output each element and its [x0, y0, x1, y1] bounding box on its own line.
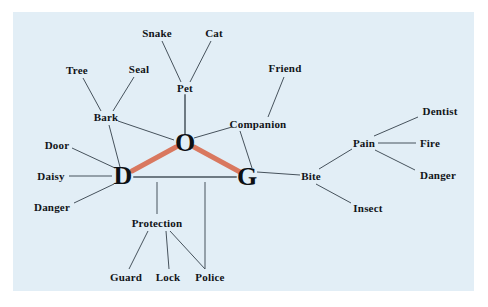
- edge-O-G: [194, 147, 240, 172]
- graph-edges: [0, 0, 488, 307]
- concept-label-guard: Guard: [110, 272, 142, 283]
- edge-bark-tree: [83, 78, 101, 111]
- concept-label-lock: Lock: [156, 272, 181, 283]
- concept-label-police: Police: [195, 272, 224, 283]
- concept-label-bite: Bite: [301, 171, 321, 182]
- edge-layer: [69, 41, 418, 269]
- edge-G-bite: [257, 172, 300, 175]
- concept-label-dentist: Dentist: [422, 106, 457, 117]
- concept-label-cat: Cat: [205, 28, 223, 39]
- concept-label-companion: Companion: [230, 119, 287, 130]
- concept-label-danger_r: Danger: [420, 170, 456, 181]
- edge-protection-guard: [129, 231, 148, 269]
- edge-pet-snake: [162, 41, 181, 82]
- edge-D-O: [132, 147, 176, 171]
- edge-companion-friend: [268, 77, 284, 117]
- concept-label-danger_l: Danger: [34, 202, 70, 213]
- edge-O-companion: [194, 127, 232, 138]
- edge-D-danger_l: [74, 184, 114, 203]
- concept-label-friend: Friend: [269, 63, 302, 74]
- concept-label-door: Door: [45, 140, 70, 151]
- core-node-D: D: [114, 163, 133, 189]
- edge-pain-danger_r: [375, 150, 415, 170]
- concept-label-tree: Tree: [66, 65, 88, 76]
- edge-protection-police: [170, 231, 205, 269]
- figure-canvas: SnakeCatTreeSealPetFriendBarkCompanionDo…: [0, 0, 488, 307]
- edge-bark-O: [118, 121, 174, 140]
- concept-label-pain: Pain: [353, 138, 375, 149]
- edge-protection-lock: [166, 231, 169, 269]
- concept-label-fire: Fire: [420, 138, 440, 149]
- edge-bite-pain: [319, 149, 352, 169]
- concept-label-snake: Snake: [142, 28, 172, 39]
- concept-label-protection: Protection: [132, 218, 183, 229]
- concept-label-pet: Pet: [177, 83, 193, 94]
- edge-bite-insect: [316, 184, 351, 203]
- edge-bark-seal: [113, 77, 134, 111]
- concept-label-insect: Insect: [353, 203, 382, 214]
- edge-pet-cat: [190, 41, 211, 82]
- core-node-G: G: [237, 164, 257, 190]
- concept-label-daisy: Daisy: [37, 171, 64, 182]
- edge-D-door: [72, 148, 115, 168]
- concept-label-bark: Bark: [94, 112, 119, 123]
- concept-label-seal: Seal: [129, 64, 149, 75]
- core-node-O: O: [175, 130, 195, 156]
- edge-pain-dentist: [374, 117, 418, 136]
